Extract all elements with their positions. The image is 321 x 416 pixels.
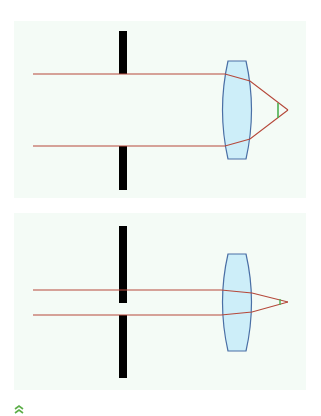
diagram-wide-aperture xyxy=(14,21,306,198)
collapse-button[interactable] xyxy=(12,402,26,414)
lens-icon xyxy=(223,61,252,159)
barrier-bottom xyxy=(119,315,127,378)
double-chevron-up-icon xyxy=(12,404,26,416)
optics-diagram-wide xyxy=(14,21,306,198)
lens-icon xyxy=(223,254,252,351)
barrier-bottom xyxy=(119,146,127,190)
barrier-top xyxy=(119,226,127,303)
diagram-narrow-aperture xyxy=(14,213,306,390)
barrier-top xyxy=(119,31,127,74)
optics-diagram-narrow xyxy=(14,213,306,390)
